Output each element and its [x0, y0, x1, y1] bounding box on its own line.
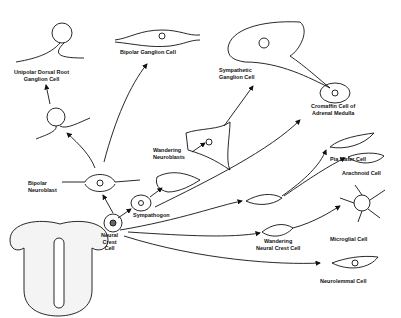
label-sympathetic-ganglion-cell: Sympathetic Ganglion Cell [219, 67, 254, 80]
label-neurolemmal-cell: Neurolemmal Cell [320, 278, 366, 285]
label-microglial-cell: Microglial Cell [330, 236, 367, 243]
neural-tube [10, 221, 108, 316]
label-wandering-neuroblasts: Wandering Neuroblasts [153, 147, 185, 160]
label-arachnoid-cell: Arachnoid Cell [342, 170, 381, 177]
label-neural-crest-cell: Neural Crest Cell [101, 232, 118, 252]
neural-crest-diagram: Unipolar Dorsal Root Ganglion Cell Bipol… [0, 0, 401, 318]
label-chromaffin-cell: Cromaffin Cell of Adrenal Medulla [311, 103, 355, 116]
label-pia-mater-cell: Pia Mater Cell [330, 156, 366, 163]
label-wandering-neural-crest-cell: Wandering Neural Crest Cell [256, 238, 300, 251]
label-bipolar-neuroblast: Bipolar Neuroblast [28, 180, 57, 193]
label-unipolar-dorsal-root-ganglion-cell: Unipolar Dorsal Root Ganglion Cell [14, 69, 69, 82]
label-sympathogon: Sympathogon [133, 212, 170, 219]
label-bipolar-ganglion-cell: Bipolar Ganglion Cell [120, 49, 176, 56]
